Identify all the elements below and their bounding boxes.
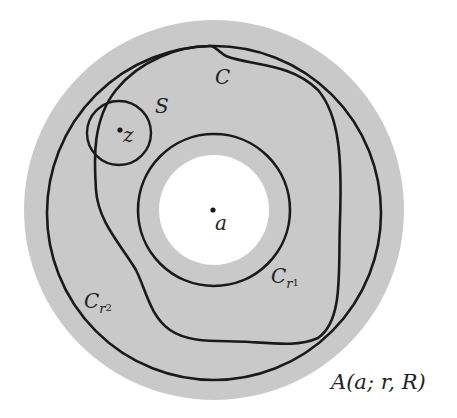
label-circle-s: S xyxy=(155,96,169,116)
point-z-dot xyxy=(117,127,122,132)
label-annulus: A(a; r, R) xyxy=(331,372,426,393)
annulus-diagram xyxy=(0,0,457,418)
label-center-a: a xyxy=(215,213,227,233)
label-c-r2-subsub: 2 xyxy=(106,302,112,313)
label-curve-c: C xyxy=(215,67,230,87)
label-point-z: z xyxy=(123,125,134,145)
label-circle-c-r2: Cr2 xyxy=(84,291,112,315)
label-circle-c-r1: Cr1 xyxy=(271,266,299,290)
label-c-r2-main: C xyxy=(84,289,99,313)
label-c-r1-main: C xyxy=(271,264,286,288)
label-c-r1-subsub: 1 xyxy=(293,277,299,288)
